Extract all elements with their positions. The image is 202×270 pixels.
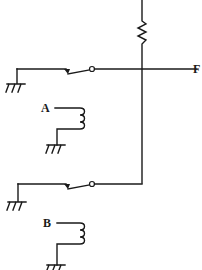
coil-b [57, 223, 85, 265]
coil-b-label: B [43, 216, 51, 230]
coil-a-label: A [41, 101, 50, 115]
ground-icon [46, 145, 65, 153]
output-label-f: F [193, 62, 200, 76]
coil-a [55, 108, 85, 145]
resistor [138, 0, 146, 183]
ground-icon [6, 69, 25, 92]
switch-a [17, 67, 197, 75]
ground-icon [47, 265, 65, 270]
switch-b [18, 182, 142, 190]
ground-icon [7, 184, 26, 210]
relay-circuit-diagram: F A B [0, 0, 202, 270]
